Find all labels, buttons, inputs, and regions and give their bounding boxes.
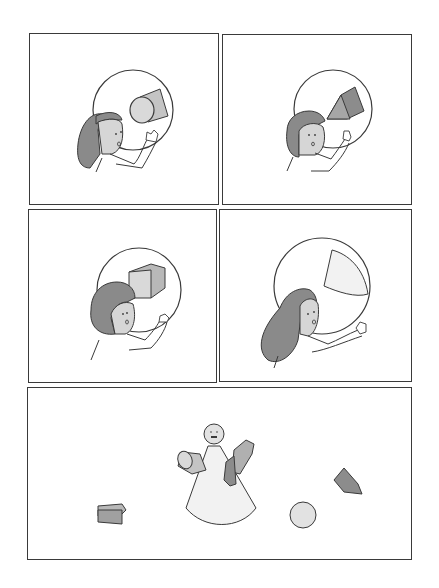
comic-panel-1 xyxy=(29,33,219,205)
cone-shape xyxy=(324,250,368,295)
comic-panel-4 xyxy=(219,209,412,382)
comic-panel-3 xyxy=(28,209,217,383)
panel-5-illustration xyxy=(28,388,413,561)
sphere-shape xyxy=(290,502,316,528)
box-shape xyxy=(98,510,122,524)
face xyxy=(98,119,123,154)
panel-3-illustration xyxy=(29,210,218,384)
panel-4-illustration xyxy=(220,210,413,383)
triangular-prism-shape xyxy=(334,468,362,494)
sphere-head xyxy=(204,424,224,444)
comic-panel-2 xyxy=(222,34,412,205)
comic-panel-5 xyxy=(27,387,412,560)
face xyxy=(299,124,325,155)
panel-2-illustration xyxy=(223,35,413,206)
panel-1-illustration xyxy=(30,34,220,206)
cylinder-shape xyxy=(130,97,154,123)
